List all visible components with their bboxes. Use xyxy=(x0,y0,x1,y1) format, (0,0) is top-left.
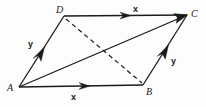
vertex-label-d: D xyxy=(56,5,63,15)
vector-label-y-left: y xyxy=(28,40,33,49)
vertex-label-c: C xyxy=(191,9,198,19)
edge-d-to-b-diagonal xyxy=(66,19,142,83)
vertex-label-b: B xyxy=(146,87,152,97)
arrowhead-b-to-c xyxy=(157,45,168,60)
vector-label-y-right: y xyxy=(171,57,176,66)
vector-label-x-top: x xyxy=(133,5,138,14)
vector-label-x-bottom: x xyxy=(71,93,76,102)
geometry-figure: A B C D x x y y xyxy=(0,0,206,107)
edge-a-to-b xyxy=(19,85,143,87)
vertex-label-a: A xyxy=(7,83,13,93)
edge-a-to-c-diagonal xyxy=(19,15,187,87)
arrowhead-a-to-d xyxy=(33,47,44,62)
parallelogram-vector-diagram xyxy=(0,0,206,107)
